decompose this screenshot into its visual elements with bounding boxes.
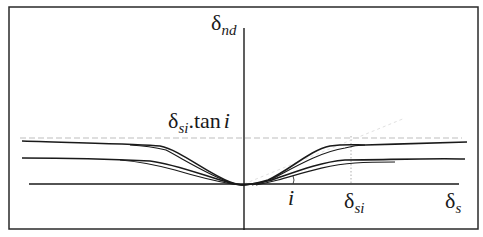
dilation-diagram <box>0 0 483 237</box>
angle-symbol: i <box>288 185 294 210</box>
angle-label: i <box>288 187 294 209</box>
curve-upper-left-1 <box>22 141 244 185</box>
y-axis-label: δnd <box>211 12 236 34</box>
x-axis-symbol: δ <box>445 188 455 213</box>
x-axis-label: δs <box>445 190 461 212</box>
peak-displacement-label: δsi <box>344 190 364 212</box>
plateau-suffix-italic: i <box>224 108 230 133</box>
y-axis-subscript: nd <box>221 22 236 38</box>
y-axis-symbol: δ <box>211 10 221 35</box>
plateau-label: δsi.tani <box>168 110 230 132</box>
angle-arc <box>293 176 294 184</box>
plateau-subscript: si <box>178 120 188 136</box>
peak-subscript: si <box>354 200 364 216</box>
peak-symbol: δ <box>344 188 354 213</box>
dilation-angle-line <box>244 118 405 184</box>
plateau-symbol: δ <box>168 108 178 133</box>
curve-lower-right-2 <box>256 162 395 185</box>
curve-upper-left-2 <box>130 145 244 185</box>
x-axis-subscript: s <box>455 200 461 216</box>
plateau-suffix: .tan <box>188 108 220 133</box>
